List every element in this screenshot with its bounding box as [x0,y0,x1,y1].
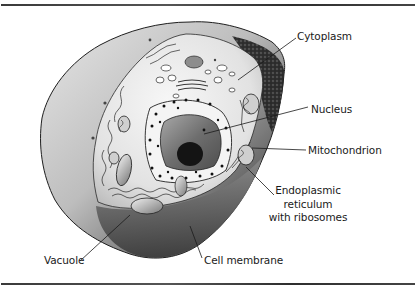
label-endoplasmic-reticulum: Endoplasmic reticulum with ribosomes [268,184,348,225]
label-vacuole: Vacuole [44,254,84,266]
label-mitochondrion: Mitochondrion [308,144,382,156]
vesicle-bottom [175,176,187,196]
vacuole [131,198,163,214]
er-line-3: with ribosomes [268,211,348,225]
label-cell-membrane: Cell membrane [204,254,283,266]
centrosome [185,56,203,68]
label-cytoplasm: Cytoplasm [297,30,352,42]
er-line-2: reticulum [268,198,348,212]
label-nucleus: Nucleus [311,103,352,115]
er-line-1: Endoplasmic [268,184,348,198]
nucleolus [177,142,203,166]
